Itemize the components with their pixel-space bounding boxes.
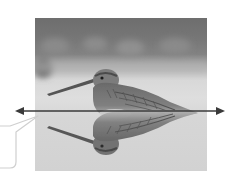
- callout-bubble: [0, 0, 233, 188]
- callout-shape: [0, 116, 38, 168]
- figure-stage: [0, 0, 233, 188]
